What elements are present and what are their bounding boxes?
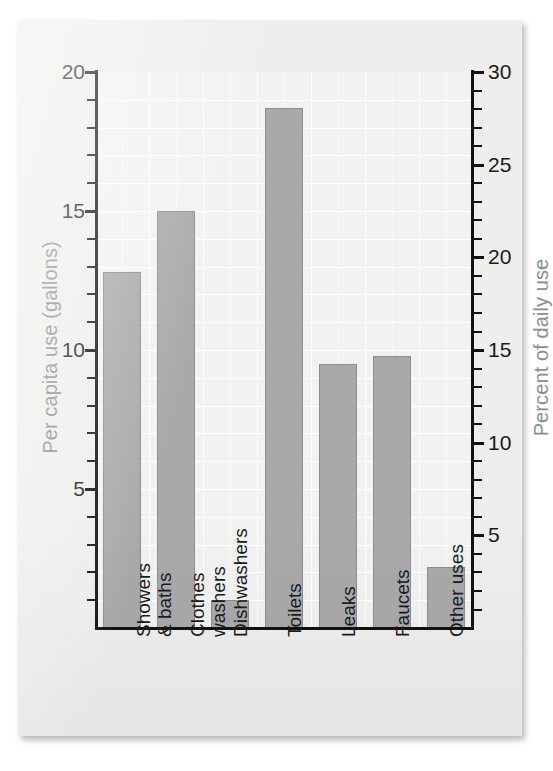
category-label-5: Leaks [338,586,359,637]
category-label-line2: washers [208,566,229,637]
axis-title-right: Percent of daily use [530,223,553,473]
tick-right-minor [474,460,482,462]
tick-left-minor [87,154,95,156]
tick-right-minor [474,201,482,203]
tick-label-right-30: 30 [488,61,538,82]
tick-left-major [85,71,95,74]
tick-right-minor [474,331,482,333]
tick-right-minor [474,479,482,481]
tick-left-minor [87,599,95,601]
category-label-2: Clotheswashers [187,566,229,637]
category-label-4: Toilets [284,583,305,637]
tick-right-major [474,442,484,445]
tick-left-major [85,488,95,491]
tick-label-right-5: 5 [488,524,538,545]
tick-right-minor [474,219,482,221]
tick-right-minor [474,368,482,370]
tick-left-minor [87,432,95,434]
tick-left-minor [87,321,95,323]
category-label-line1: Clothes [187,566,208,637]
tick-right-minor [474,590,482,592]
tick-left-minor [87,238,95,240]
tick-right-minor [474,145,482,147]
category-label-line1: Toilets [284,583,305,637]
tick-right-minor [474,293,482,295]
tick-left-minor [87,266,95,268]
tick-left-minor [87,182,95,184]
category-label-line1: Other uses [446,544,467,637]
tick-right-minor [474,108,482,110]
chart-card: 2015105 30252015105 Per capita use (gall… [18,20,522,736]
tick-right-major [474,164,484,167]
axis-title-left: Per capita use (gallons) [39,218,62,478]
axis-spine-left [95,70,98,630]
category-label-line1: Leaks [338,586,359,637]
tick-left-minor [87,127,95,129]
plot-area [95,72,473,628]
tick-left-minor [87,293,95,295]
category-label-line1: Showers [133,563,154,637]
tick-right-minor [474,127,482,129]
tick-left-major [85,210,95,213]
tick-right-minor [474,553,482,555]
category-label-7: Other uses [446,544,467,637]
tick-left-minor [87,516,95,518]
category-label-1: Showers& baths [133,563,175,637]
tick-right-major [474,71,484,74]
tick-right-major [474,349,484,352]
tick-right-minor [474,609,482,611]
category-label-line2: & baths [154,563,175,637]
tick-left-minor [87,544,95,546]
tick-right-major [474,256,484,259]
bars-layer [95,72,473,628]
tick-left-minor [87,571,95,573]
tick-left-major [85,349,95,352]
tick-left-minor [87,99,95,101]
category-label-line1: Dishwashers [230,528,251,637]
tick-label-right-25: 25 [488,154,538,175]
tick-right-minor [474,571,482,573]
tick-right-minor [474,386,482,388]
tick-right-minor [474,90,482,92]
tick-right-minor [474,405,482,407]
tick-right-minor [474,497,482,499]
tick-left-minor [87,405,95,407]
tick-right-minor [474,238,482,240]
category-label-6: Faucets [392,569,413,637]
tick-right-minor [474,275,482,277]
bar-4 [265,108,303,628]
tick-right-major [474,534,484,537]
category-label-line1: Faucets [392,569,413,637]
tick-right-minor [474,516,482,518]
tick-left-minor [87,460,95,462]
tick-left-minor [87,377,95,379]
tick-right-minor [474,182,482,184]
tick-right-minor [474,423,482,425]
tick-right-minor [474,312,482,314]
tick-label-left-20: 20 [35,61,85,82]
tick-label-left-5: 5 [35,478,85,499]
category-label-3: Dishwashers [230,528,251,637]
